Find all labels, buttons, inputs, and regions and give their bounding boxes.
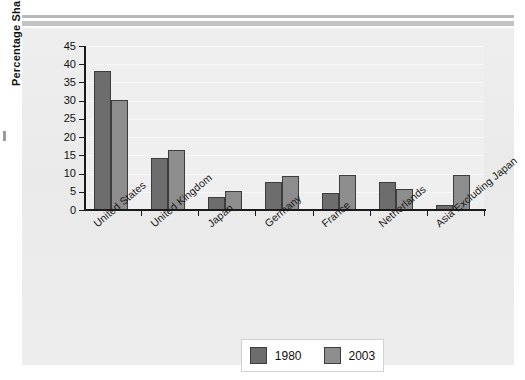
y-tick-label: 20 [48, 132, 76, 143]
bar [94, 71, 111, 210]
gridline [84, 101, 484, 102]
legend-item-1980: 1980 [250, 347, 302, 364]
legend-label-1980: 1980 [275, 349, 302, 363]
scan-left-margin-mark [3, 131, 6, 141]
y-tick-label-text: 30 [64, 95, 76, 106]
y-tick-mark [79, 192, 84, 193]
y-tick-mark [79, 210, 84, 211]
gridline [84, 46, 484, 47]
y-tick-label-text: 25 [64, 113, 76, 124]
gridline [84, 174, 484, 175]
x-tick-mark [313, 211, 314, 216]
x-tick-mark [370, 211, 371, 216]
gridline [84, 155, 484, 156]
y-tick-mark [79, 82, 84, 83]
y-tick-mark [79, 46, 84, 47]
y-tick-label-text: 0 [70, 205, 76, 216]
y-tick-label: 30 [48, 95, 76, 106]
y-tick-mark [79, 119, 84, 120]
scan-top-rule-lower [22, 21, 514, 26]
y-tick-mark [79, 101, 84, 102]
y-tick-mark [79, 64, 84, 65]
y-axis-title: Percentage Share [10, 0, 22, 86]
y-tick-mark [79, 137, 84, 138]
y-tick-label: 0 [48, 205, 76, 216]
y-tick-label-text: 5 [70, 186, 76, 197]
gridline [84, 64, 484, 65]
x-tick-mark [141, 211, 142, 216]
y-tick-label-text: 15 [64, 150, 76, 161]
legend-label-2003: 2003 [349, 349, 376, 363]
y-tick-label: 25 [48, 113, 76, 124]
y-tick-label-text: 10 [64, 168, 76, 179]
chart-legend: 1980 2003 [241, 339, 384, 372]
y-tick-label: 40 [48, 59, 76, 70]
y-tick-mark [79, 155, 84, 156]
y-tick-label-text: 20 [64, 132, 76, 143]
bar [151, 158, 168, 210]
x-tick-mark [198, 211, 199, 216]
y-tick-label: 5 [48, 186, 76, 197]
y-tick-label-text: 45 [64, 41, 76, 52]
y-tick-label: 10 [48, 168, 76, 179]
y-tick-label-text: 35 [64, 77, 76, 88]
x-tick-mark [484, 211, 485, 216]
chart-panel: 454035302520151050 United StatesUnited K… [22, 28, 514, 365]
y-tick-label-text: 40 [64, 59, 76, 70]
gridline [84, 82, 484, 83]
legend-swatch-2003 [324, 347, 341, 364]
x-tick-mark [427, 211, 428, 216]
gridline [84, 119, 484, 120]
y-tick-mark [79, 174, 84, 175]
legend-swatch-1980 [250, 347, 267, 364]
y-tick-label: 15 [48, 150, 76, 161]
x-tick-mark [255, 211, 256, 216]
gridline [84, 137, 484, 138]
legend-item-2003: 2003 [324, 347, 376, 364]
y-tick-label: 45 [48, 41, 76, 52]
scan-top-rule-upper [22, 15, 514, 18]
y-tick-label: 35 [48, 77, 76, 88]
y-axis-line [84, 46, 86, 210]
screenshot-root: 454035302520151050 United StatesUnited K… [0, 0, 525, 380]
